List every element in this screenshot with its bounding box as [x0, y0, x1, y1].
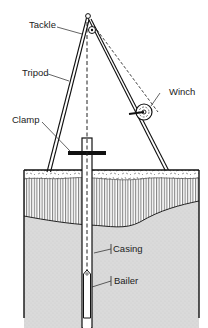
- tripod: [47, 18, 169, 172]
- well-diagram: Tackle Tripod Winch Clamp Casing Bailer: [0, 0, 208, 328]
- top-ring: [86, 14, 91, 19]
- bailer-label: Bailer: [114, 276, 138, 286]
- tackle-label: Tackle: [29, 20, 56, 30]
- diagram-svg: [0, 0, 208, 328]
- tripod-label: Tripod: [22, 68, 49, 78]
- winch-label: Winch: [169, 87, 195, 97]
- casing-label: Casing: [113, 244, 143, 254]
- clamp-label: Clamp: [12, 115, 39, 125]
- ground: [24, 170, 199, 328]
- bailer: [84, 270, 91, 318]
- tackle-pulley: [89, 27, 96, 34]
